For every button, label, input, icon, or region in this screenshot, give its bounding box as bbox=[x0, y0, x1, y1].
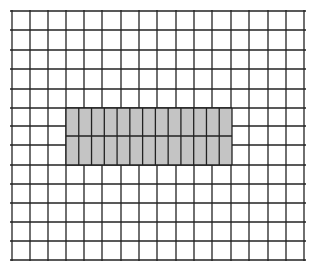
grid-diagram bbox=[0, 0, 317, 271]
shaded-rectangle bbox=[66, 108, 232, 165]
